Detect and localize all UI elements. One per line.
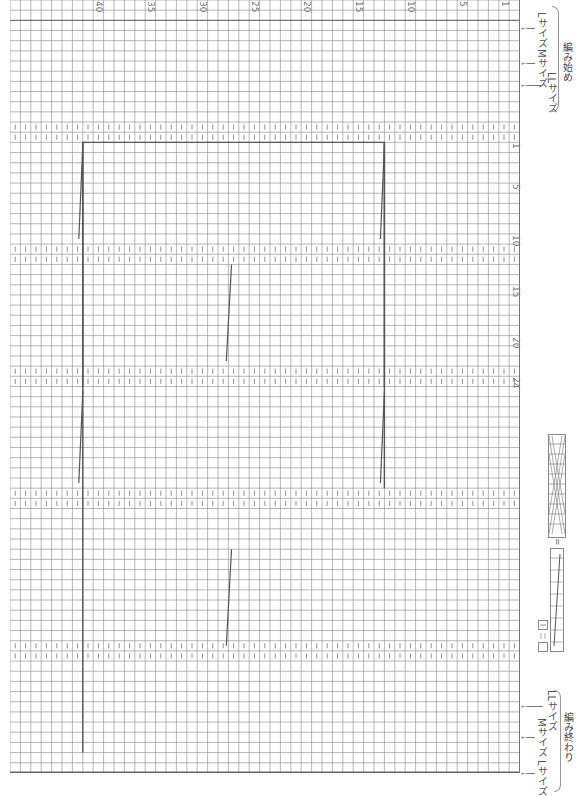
stitch-number-label: 5	[458, 1, 467, 7]
row-number-label: 24	[511, 377, 520, 388]
arrow-ll-size-end	[527, 706, 543, 707]
arrow-l-size-start	[527, 28, 535, 29]
knitting-chart-grid	[10, 0, 520, 773]
arrow-l-size-end	[527, 773, 535, 774]
legend-equals-1: =	[553, 538, 563, 546]
stitch-number-label: 20	[302, 1, 311, 12]
row-number-label: 10	[511, 235, 520, 246]
stitch-number-label: 35	[146, 1, 155, 12]
arrow-head-icon: ←	[521, 82, 527, 90]
l-size-label-start: Lサイズ	[536, 12, 547, 48]
arrow-head-icon: ←	[521, 60, 527, 68]
start-brace	[552, 6, 559, 112]
arrow-head-icon: ←	[521, 703, 527, 711]
stitch-number-label: 1	[500, 1, 509, 7]
end-caption: 編み終わり	[562, 712, 573, 762]
cable-cross-symbol-icon	[548, 434, 566, 538]
arrow-head-icon: ←	[521, 25, 527, 33]
start-caption: 編み始め	[561, 42, 572, 82]
end-brace	[554, 690, 561, 792]
row-number-label: 1	[511, 143, 520, 149]
arrow-ll-size-start	[527, 85, 543, 86]
row-number-label: 20	[511, 337, 520, 348]
arrow-m-size-start	[527, 63, 535, 64]
stitch-number-label: 15	[354, 1, 363, 12]
row-number-label: 5	[511, 184, 520, 190]
stitch-number-label: 25	[250, 1, 259, 12]
arrow-head-icon: ←	[521, 734, 527, 742]
arrow-m-size-end	[527, 737, 535, 738]
stitch-key-icon	[538, 620, 548, 652]
stitch-number-label: 30	[198, 1, 207, 12]
stitch-number-label: 10	[406, 1, 415, 12]
l-size-label-end: Lサイズ	[536, 760, 547, 796]
long-stitch-symbol-icon	[550, 548, 564, 652]
stitch-number-label: 40	[94, 1, 103, 12]
arrow-head-icon: ←	[521, 770, 527, 778]
row-number-label: 15	[511, 286, 520, 297]
